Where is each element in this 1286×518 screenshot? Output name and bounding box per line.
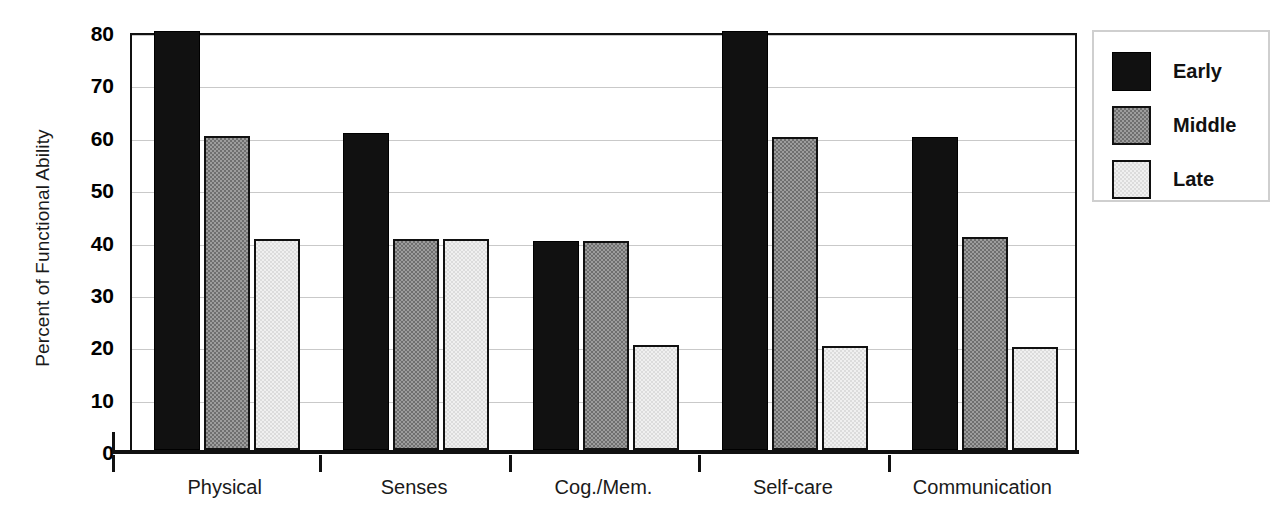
y-tick-label: 10 [52,389,114,410]
legend: EarlyMiddleLate [1092,30,1270,202]
x-tick-label: Physical [187,476,261,499]
y-tick-label: 50 [52,180,114,201]
bar-group [700,35,889,450]
y-tick-label: 60 [52,127,114,148]
legend-swatch-early-icon [1112,52,1151,91]
bar-middle-senses [393,239,439,450]
y-tick-label: 20 [52,337,114,358]
y-tick-label: 0 [52,442,114,463]
bar-late-self-care [822,346,868,450]
bar-early-cog-mem [533,241,579,451]
x-tick-label: Cog./Mem. [555,476,653,499]
legend-label: Early [1173,60,1222,83]
bar-early-physical [154,31,200,450]
x-axis-tick [698,455,701,472]
y-tick-label: 70 [52,75,114,96]
bar-early-senses [343,133,389,450]
bar-early-self-care [722,31,768,450]
bar-late-physical [254,239,300,450]
y-tick-label: 30 [52,284,114,305]
x-tick-label: Self-care [753,476,833,499]
y-axis-origin-stub [112,432,115,454]
legend-swatch-late-icon [1112,160,1151,199]
bar-group [132,35,321,450]
y-axis-title: Percent of Functional Ability [32,83,54,413]
legend-item-early[interactable]: Early [1112,52,1222,91]
x-axis-tick [888,455,891,472]
legend-label: Middle [1173,114,1236,137]
bar-late-communication [1012,347,1058,450]
x-axis-tick [509,455,512,472]
y-tick-label: 40 [52,232,114,253]
x-axis-tick [319,455,322,472]
y-axis-tick-labels: 01020304050607080 [52,33,114,452]
y-tick-label: 80 [52,23,114,44]
bar-late-cog-mem [633,345,679,450]
bar-group [511,35,700,450]
legend-item-late[interactable]: Late [1112,160,1214,199]
bar-group [890,35,1079,450]
bar-chart: Percent of Functional Ability 0102030405… [0,0,1286,518]
bar-late-senses [443,239,489,450]
bar-middle-cog-mem [583,241,629,451]
x-axis-line [112,450,1079,454]
legend-label: Late [1173,168,1214,191]
legend-swatch-middle-icon [1112,106,1151,145]
legend-item-middle[interactable]: Middle [1112,106,1236,145]
bar-middle-physical [204,136,250,450]
bar-groups [132,35,1075,450]
bar-group [321,35,510,450]
x-axis-tick [112,455,115,472]
bar-middle-communication [962,237,1008,450]
x-tick-label: Communication [913,476,1052,499]
bar-early-communication [912,137,958,450]
bar-middle-self-care [772,137,818,450]
plot-area [130,33,1077,452]
x-tick-label: Senses [381,476,448,499]
